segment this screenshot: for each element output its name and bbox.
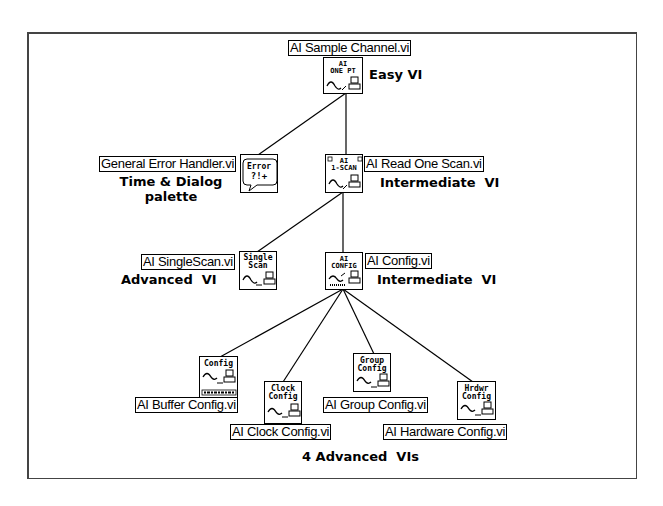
vi-label-ai-buffer-config: AI Buffer Config.vi	[135, 397, 238, 413]
ai-config-icon[interactable]: AI CONFIG	[325, 252, 363, 290]
vi-label-ai-singlescan: AI SingleScan.vi	[141, 254, 235, 270]
waveform-computer-glyph	[458, 382, 497, 421]
waveform-computer-glyph	[326, 253, 364, 291]
note-line: Time & Dialog	[116, 174, 226, 189]
note-time-dialog-palette: Time & Dialog palette	[116, 174, 226, 204]
icon-text: ?!+	[241, 172, 277, 181]
waveform-computer-glyph	[240, 252, 278, 291]
note-intermediate-vi: Intermediate VI	[380, 175, 499, 190]
vi-label-general-error-handler: General Error Handler.vi	[99, 156, 236, 172]
group-config-icon[interactable]: Group Config	[353, 353, 391, 392]
vi-label-ai-config: AI Config.vi	[365, 253, 432, 269]
note-intermediate-vi-2: Intermediate VI	[377, 272, 496, 287]
waveform-computer-glyph	[265, 382, 303, 425]
note-4-advanced-vis: 4 Advanced VIs	[302, 449, 419, 464]
single-scan-icon[interactable]: Single Scan	[239, 251, 277, 290]
vi-label-ai-hardware-config: AI Hardware Config.vi	[383, 424, 507, 440]
waveform-computer-glyph	[324, 58, 364, 95]
note-easy-vi: Easy VI	[369, 67, 422, 82]
hardware-config-icon[interactable]: Hrdwr Config	[457, 381, 496, 420]
vi-label-ai-read-one-scan: AI Read One Scan.vi	[364, 156, 484, 172]
icon-text: Error	[241, 163, 277, 170]
note-line: palette	[116, 189, 226, 204]
waveform-computer-glyph	[200, 357, 239, 400]
vi-label-ai-group-config: AI Group Config.vi	[323, 397, 428, 413]
error-handler-icon[interactable]: Error ?!+	[240, 154, 278, 193]
waveform-computer-glyph	[354, 354, 392, 393]
ai-1-scan-icon[interactable]: AI 1-SCAN	[325, 154, 363, 193]
vi-label-ai-clock-config: AI Clock Config.vi	[230, 424, 331, 440]
ai-one-pt-icon[interactable]: AI ONE PT	[323, 57, 363, 94]
icon-text: 1-SCAN	[326, 165, 362, 172]
clock-config-icon[interactable]: Clock Config	[264, 381, 302, 424]
buffer-config-icon[interactable]: Config	[199, 356, 238, 399]
vi-label-ai-sample-channel: AI Sample Channel.vi	[288, 40, 411, 56]
note-advanced-vi: Advanced VI	[121, 272, 217, 287]
